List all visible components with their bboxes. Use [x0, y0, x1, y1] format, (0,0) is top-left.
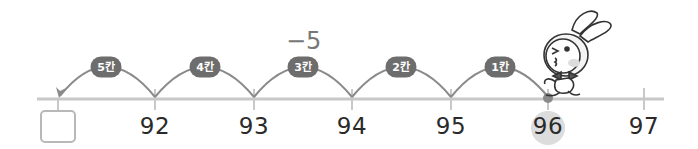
arrowhead-icon: [56, 87, 66, 98]
tick-label-94: 94: [337, 113, 367, 139]
bunny-mascot-icon: [544, 11, 611, 95]
tick-label-92: 92: [140, 113, 170, 139]
number-line-diagram: −5: [0, 0, 698, 149]
tick-label-95: 95: [436, 113, 466, 139]
jump-badge-3: 3칸: [288, 57, 319, 78]
start-dot: [543, 93, 553, 103]
jump-badge-2: 2칸: [386, 57, 417, 78]
jump-badge-4: 4칸: [190, 57, 221, 78]
tick-label-96: 96: [533, 113, 563, 139]
tick-label-97: 97: [629, 113, 659, 139]
answer-box[interactable]: [40, 110, 76, 143]
jump-badge-5: 5칸: [91, 57, 122, 78]
jump-badge-1: 1칸: [485, 57, 516, 78]
tick-label-93: 93: [239, 113, 269, 139]
